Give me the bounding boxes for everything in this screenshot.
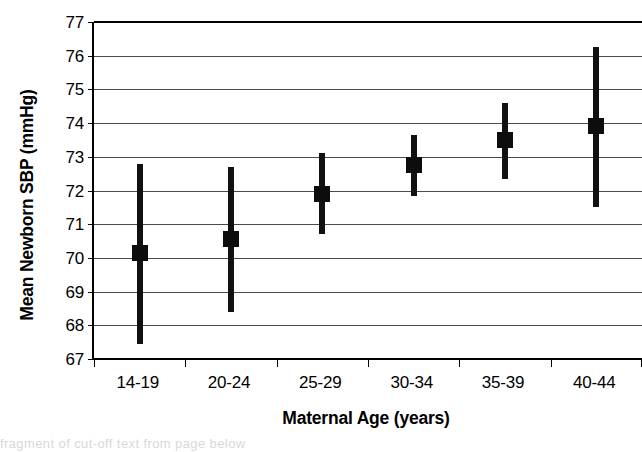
y-axis-tickmark-73 — [88, 157, 94, 158]
gridline-73 — [94, 157, 642, 158]
data-point-marker-30-34 — [406, 157, 422, 173]
y-axis-tick-label: 67 — [48, 351, 84, 368]
x-axis-title: Maternal Age (years) — [92, 408, 640, 429]
gridline-74 — [94, 123, 642, 124]
y-axis-tick-label: 76 — [48, 47, 84, 64]
plot-area — [92, 22, 642, 359]
y-axis-tickmark-71 — [88, 224, 94, 225]
x-axis-tickmark-25-29 — [277, 359, 278, 367]
y-axis-tickmark-68 — [88, 325, 94, 326]
y-axis-tick-label: 74 — [48, 115, 84, 132]
gridline-69 — [94, 292, 642, 293]
y-axis-title: Mean Newborn SBP (mmHg) — [12, 55, 42, 355]
y-axis-tickmark-74 — [88, 123, 94, 124]
y-axis-tick-label: 70 — [48, 249, 84, 266]
y-axis-tick-label: 77 — [48, 14, 84, 31]
chart-figure: Mean Newborn SBP (mmHg) 6768697071727374… — [0, 0, 642, 452]
data-point-marker-35-39 — [497, 132, 513, 148]
x-axis-tickmark-30-34 — [368, 359, 369, 367]
y-axis-tick-label: 68 — [48, 317, 84, 334]
y-axis-tickmark-75 — [88, 89, 94, 90]
y-axis-tick-label-group: 6768697071727374757677 — [48, 0, 84, 452]
x-axis-tickmark-40-44 — [551, 359, 552, 367]
y-axis-tickmark-72 — [88, 191, 94, 192]
x-axis-tickmark-35-39 — [459, 359, 460, 367]
x-axis-tickmark-20-24 — [185, 359, 186, 367]
y-axis-tickmark-77 — [88, 22, 94, 23]
y-axis-tick-label: 73 — [48, 148, 84, 165]
y-axis-tickmark-76 — [88, 56, 94, 57]
data-point-marker-40-44 — [588, 118, 604, 134]
data-point-marker-25-29 — [314, 186, 330, 202]
gridline-77 — [94, 21, 642, 23]
y-axis-tick-label: 71 — [48, 216, 84, 233]
data-point-marker-14-19 — [132, 245, 148, 261]
gridline-70 — [94, 258, 642, 259]
gridline-71 — [94, 224, 642, 225]
y-axis-tick-label: 69 — [48, 283, 84, 300]
scan-artifact-text: fragment of cut-off text from page below — [0, 436, 642, 452]
gridline-75 — [94, 89, 642, 90]
gridline-76 — [94, 56, 642, 57]
y-axis-tickmark-69 — [88, 292, 94, 293]
gridline-68 — [94, 325, 642, 326]
x-axis-tickmark-14-19 — [94, 359, 95, 367]
y-axis-tick-label: 75 — [48, 81, 84, 98]
data-point-marker-20-24 — [223, 231, 239, 247]
x-axis-tick-label-40-44: 40-44 — [539, 372, 642, 394]
x-axis-tick-label-group: 14-1920-2425-2930-3435-3940-44 — [92, 372, 640, 400]
y-axis-tickmark-70 — [88, 258, 94, 259]
y-axis-tick-label: 72 — [48, 182, 84, 199]
gridline-72 — [94, 191, 642, 192]
